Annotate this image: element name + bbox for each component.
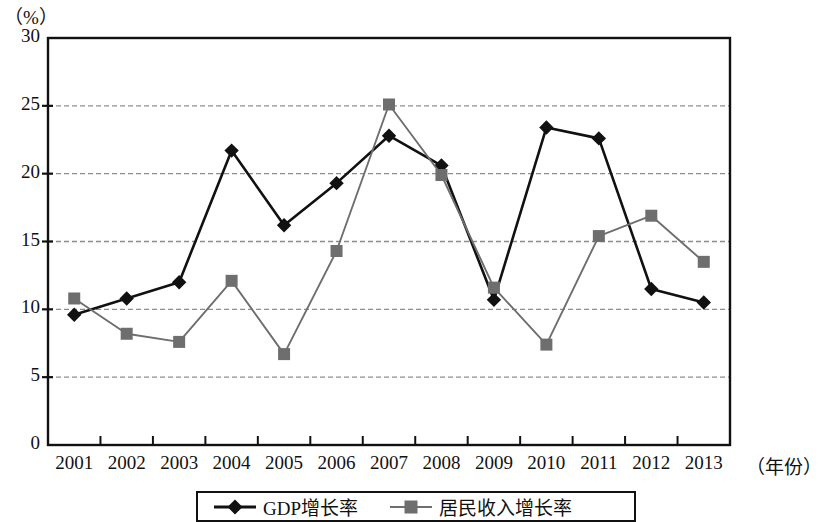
y-axis-tick-label: 25	[0, 93, 40, 115]
series-layer	[67, 98, 711, 360]
x-axis-tick-label: 2010	[520, 452, 572, 474]
x-axis-tick-label: 2006	[310, 452, 362, 474]
legend-item[interactable]: GDP增长率	[212, 493, 358, 520]
x-axis-tick-label: 2013	[678, 452, 730, 474]
y-axis-tick-label: 10	[0, 296, 40, 318]
legend-item-label: GDP增长率	[263, 493, 358, 520]
x-axis-tick-label: 2012	[625, 452, 677, 474]
legend-item-label: 居民收入增长率	[439, 493, 572, 520]
x-axis-title: （年份）	[746, 452, 818, 479]
x-axis-tick-label: 2001	[48, 452, 100, 474]
y-axis-tick-label: 0	[0, 432, 40, 454]
y-axis-tick-label: 5	[0, 364, 40, 386]
x-axis-tick-label: 2011	[573, 452, 625, 474]
y-axis-tick-label: 20	[0, 161, 40, 183]
diamond-marker-icon	[212, 498, 258, 516]
x-axis-tick-label: 2008	[415, 452, 467, 474]
x-axis-tick-label: 2003	[153, 452, 205, 474]
chart-legend: GDP增长率居民收入增长率	[196, 491, 636, 522]
legend-item[interactable]: 居民收入增长率	[388, 493, 572, 520]
square-marker-icon	[388, 498, 434, 516]
y-axis-tick-label: 30	[0, 25, 40, 47]
x-axis-tick-label: 2002	[100, 452, 152, 474]
x-axis-ticks-group	[100, 436, 677, 445]
x-axis-tick-label: 2009	[468, 452, 520, 474]
x-axis-tick-label: 2007	[363, 452, 415, 474]
y-axis-tick-label: 15	[0, 229, 40, 251]
x-axis-tick-label: 2004	[205, 452, 257, 474]
x-axis-tick-label: 2005	[258, 452, 310, 474]
